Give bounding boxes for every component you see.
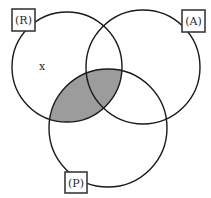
label-a: (A) xyxy=(182,10,205,32)
label-p: (P) xyxy=(65,172,87,193)
label-p-text: (P) xyxy=(68,177,84,190)
label-r-text: (R) xyxy=(15,14,32,27)
label-r: (R) xyxy=(12,9,35,31)
label-a-text: (A) xyxy=(185,15,202,28)
marker-x: x xyxy=(39,60,46,73)
venn-diagram: (R) (A) (P) x xyxy=(0,0,211,198)
